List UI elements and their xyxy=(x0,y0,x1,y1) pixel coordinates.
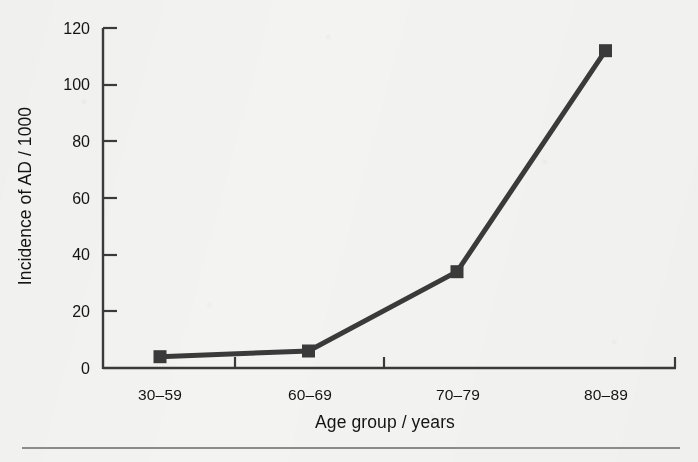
series-line-incidence xyxy=(160,51,606,357)
axis-lines xyxy=(103,28,676,369)
footer-rule xyxy=(22,447,680,449)
data-point-marker xyxy=(599,44,612,57)
y-axis-ticks xyxy=(103,28,117,311)
line-chart-plot xyxy=(0,0,698,462)
data-point-marker xyxy=(302,345,315,358)
figure-root: 120 100 80 60 40 20 0 30–59 60–69 70–79 … xyxy=(0,0,698,462)
data-series-incidence-of-ad xyxy=(154,44,613,363)
data-point-marker xyxy=(154,350,167,363)
x-axis-ticks xyxy=(235,357,675,368)
series-markers xyxy=(154,44,613,363)
data-point-marker xyxy=(451,265,464,278)
